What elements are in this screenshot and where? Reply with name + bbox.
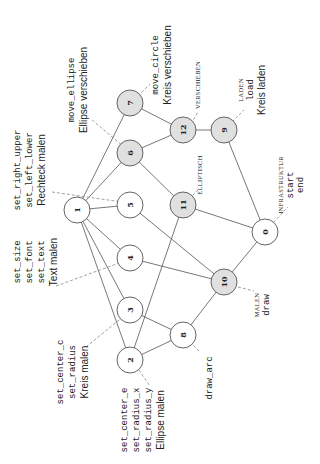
node-5: 5 [117,192,143,218]
node-9: 9 [211,117,237,143]
label-set-radius-y: set_radius_y [144,387,154,452]
label-malen: MALEN [253,293,260,318]
label-set-left-lower: set_left_lower [25,132,35,208]
label-rechteck-malen: Rechteck malen [36,134,47,206]
label-laden: LADEN [237,78,244,102]
label-set-center-c: set_center_c [56,340,66,405]
label-ellipse-malen: Ellipse malen [155,390,166,449]
label-kreis-verschieben: Kreis verschieben [162,25,173,104]
label-set-center-e: set_center_e [120,388,130,453]
node-4: 4 [117,245,143,271]
leader-malen [238,287,254,291]
node-10-label: 10 [219,276,229,288]
label-move-ellipse: move_ellipse [67,58,77,123]
label-kreis-laden: Kreis laden [256,65,267,115]
label-set-radius: set_radius [68,345,78,399]
node-6: 6 [117,140,143,166]
label-draw: draw [262,294,272,316]
label-infrastruktur: INFRASTRUKTUR [277,156,284,214]
node-8-label: 8 [178,332,188,338]
node-10: 10 [211,269,237,295]
label-set-font: set_font [25,240,35,283]
edges [77,103,265,360]
dependency-graph: 0 1 2 3 4 5 6 7 8 9 10 11 12 set_right_u… [0,0,320,464]
node-8: 8 [170,322,196,348]
label-verschieben: VERSCHIEBEN [194,61,201,109]
leader-rechteck [52,192,122,202]
node-1-label: 1 [72,207,82,213]
nodes: 0 1 2 3 4 5 6 7 8 9 10 11 12 [64,90,278,373]
node-6-label: 6 [125,150,135,156]
node-4-label: 4 [125,255,135,261]
node-12: 12 [170,117,196,143]
label-end: end [296,177,306,193]
label-set-size: set_size [13,240,23,283]
label-set-text: set_text [37,240,47,283]
leader-text [56,262,122,286]
node-5-label: 5 [125,202,135,208]
node-0-label: 0 [260,229,270,235]
node-3-label: 3 [125,307,135,313]
label-text-malen: Text malen [48,238,59,286]
leader-move-ellipse [92,120,123,146]
node-7-label: 7 [125,100,135,106]
node-11: 11 [170,192,196,218]
node-11-label: 11 [178,199,188,210]
leader-kreis [86,316,124,347]
label-set-right-upper: set_right_upper [13,129,23,210]
leader-laden [232,110,244,122]
edge-9-0 [224,130,265,232]
node-9-label: 9 [219,127,229,133]
label-ellipse-verschieben: Ellipse verschieben [78,47,89,133]
node-12-label: 12 [178,124,188,135]
label-start: start [286,171,296,198]
label-set-radius-x: set_radius_x [132,388,142,453]
label-draw-arc: draw_arc [205,356,215,399]
label-kreis-malen: Kreis malen [79,346,90,399]
label-load: load [246,79,256,101]
node-0: 0 [252,219,278,245]
node-2-label: 2 [125,357,135,363]
label-move-circle: move_circle [151,35,161,94]
node-2: 2 [117,347,143,373]
node-3: 3 [117,297,143,323]
node-7: 7 [117,90,143,116]
node-1: 1 [64,197,90,223]
label-elliptisch: ELLIPTISCH [196,155,203,194]
edge-1-2 [77,210,130,360]
